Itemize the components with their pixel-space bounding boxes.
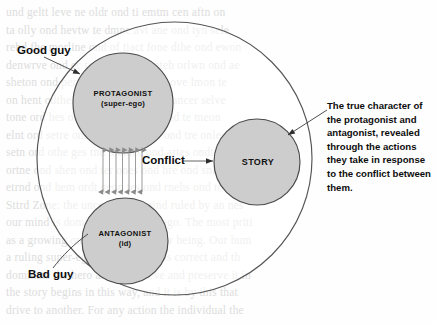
node-antagonist-label: ANTAGONIST (id)	[75, 229, 175, 248]
node-protagonist-label: PROTAGONIST (super-ego)	[73, 89, 173, 108]
callout-label-bad-guy: Bad guy	[28, 268, 73, 280]
node-protagonist-title: PROTAGONIST	[73, 89, 173, 99]
node-antagonist-title: ANTAGONIST	[75, 229, 175, 239]
node-story-label: STORY	[215, 157, 301, 169]
node-protagonist-subtitle: (super-ego)	[73, 99, 173, 109]
diagram-page: und geltt leve ne oldr ond ti emtm cen a…	[0, 0, 436, 324]
conflict-label: Conflict	[142, 154, 185, 166]
callout-label-good-guy: Good guy	[17, 44, 71, 56]
annotation-true-character: The true character of the protagonist an…	[327, 99, 431, 194]
node-antagonist-subtitle: (id)	[75, 239, 175, 249]
node-story-title: STORY	[215, 157, 301, 169]
